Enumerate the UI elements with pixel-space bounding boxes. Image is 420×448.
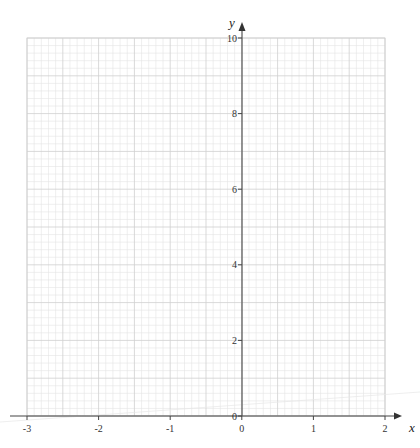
y-tick-label: 2 bbox=[232, 335, 237, 346]
x-tick-label: -1 bbox=[166, 423, 174, 434]
y-tick-label: 6 bbox=[232, 184, 237, 195]
y-axis-arrow-icon bbox=[239, 22, 246, 31]
y-tick-label: 10 bbox=[227, 33, 237, 44]
y-tick-label: 4 bbox=[232, 259, 237, 270]
y-axis-label: y bbox=[227, 15, 235, 30]
x-tick-label: -3 bbox=[23, 423, 31, 434]
y-tick-label: 8 bbox=[232, 108, 237, 119]
x-tick-label: 2 bbox=[383, 423, 388, 434]
y-tick-label: 0 bbox=[232, 411, 237, 422]
graph-paper-chart: -3-2-1012 0246810 x y bbox=[0, 0, 420, 448]
x-ticks: -3-2-1012 bbox=[23, 416, 388, 434]
x-axis-arrow-icon bbox=[394, 413, 402, 420]
x-tick-label: 1 bbox=[311, 423, 316, 434]
major-grid bbox=[27, 38, 385, 416]
x-tick-label: 0 bbox=[239, 423, 244, 434]
x-tick-label: -2 bbox=[94, 423, 102, 434]
x-axis-label: x bbox=[408, 420, 415, 435]
